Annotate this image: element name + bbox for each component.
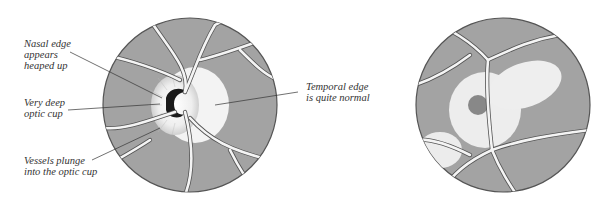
label-vessels-plunge: Vessels plunge into the optic cup bbox=[24, 155, 97, 177]
label-temporal-edge: Temporal edge is quite normal bbox=[306, 81, 370, 103]
label-line: heaped up bbox=[24, 60, 71, 71]
label-line: Very deep bbox=[24, 97, 65, 108]
right-fundus bbox=[415, 18, 590, 200]
fundus-diagram bbox=[0, 0, 603, 211]
label-line: Nasal edge bbox=[24, 38, 71, 49]
label-deep-cup: Very deep optic cup bbox=[24, 97, 65, 119]
label-line: appears bbox=[24, 49, 71, 60]
label-line: optic cup bbox=[24, 108, 65, 119]
optic-cup bbox=[468, 95, 488, 115]
label-line: is quite normal bbox=[306, 92, 370, 103]
label-line: Temporal edge bbox=[306, 81, 370, 92]
left-fundus bbox=[68, 15, 298, 195]
label-nasal-edge: Nasal edge appears heaped up bbox=[24, 38, 71, 71]
label-line: into the optic cup bbox=[24, 166, 97, 177]
label-line: Vessels plunge bbox=[24, 155, 97, 166]
